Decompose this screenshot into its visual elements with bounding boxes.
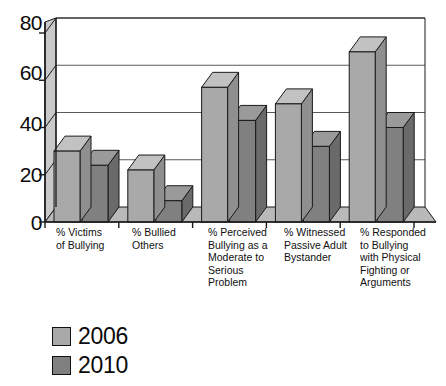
bar-2006-3 bbox=[275, 89, 312, 222]
legend-label-2006: 2006 bbox=[78, 325, 128, 348]
chart-legend: 2006 2010 bbox=[52, 322, 128, 380]
category-label-perceived: % Perceived Bullying as a Moderate to Se… bbox=[208, 226, 284, 289]
category-label-witnessed: % Witnessed Passive Adult Bystander bbox=[284, 226, 360, 289]
category-label-bullied: % Bullied Others bbox=[132, 226, 208, 289]
bar-chart: 80 60 40 20 0 % Victims of Bullying % Bu… bbox=[0, 0, 446, 386]
bar-2006-0 bbox=[54, 136, 91, 222]
bar-2006-1 bbox=[128, 155, 165, 222]
bar-2006-2 bbox=[202, 72, 239, 222]
legend-item-2010: 2010 bbox=[52, 351, 128, 380]
legend-swatch-2006 bbox=[52, 327, 71, 346]
bar-2006-4 bbox=[349, 37, 386, 222]
legend-item-2006: 2006 bbox=[52, 322, 128, 351]
plot-area bbox=[0, 0, 446, 240]
x-axis-category-labels: % Victims of Bullying % Bullied Others %… bbox=[56, 226, 436, 289]
legend-label-2010: 2010 bbox=[78, 354, 128, 377]
legend-swatch-2010 bbox=[52, 356, 71, 375]
category-label-victims: % Victims of Bullying bbox=[56, 226, 132, 289]
category-label-responded: % Responded to Bullying with Physical Fi… bbox=[360, 226, 436, 289]
